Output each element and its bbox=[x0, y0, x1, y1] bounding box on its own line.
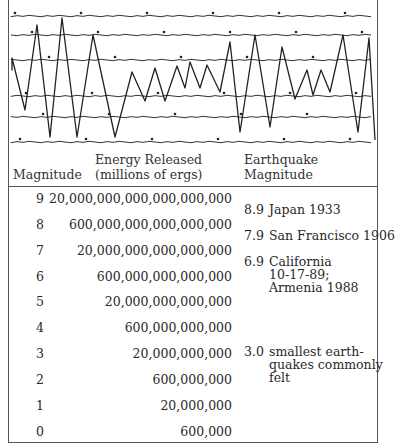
magnitude-cell: 2 bbox=[9, 372, 71, 387]
energy-cell: 600,000,000,000 bbox=[125, 320, 232, 335]
example-value: 8.9 bbox=[244, 204, 264, 216]
header-quake-line2: Magnitude bbox=[244, 168, 313, 182]
energy-cell: 20,000,000,000,000 bbox=[105, 294, 232, 309]
table-row: 0600,000 bbox=[9, 420, 377, 446]
magnitude-cell: 7 bbox=[9, 243, 71, 258]
energy-cell: 600,000,000 bbox=[152, 372, 232, 387]
energy-cell: 600,000,000,000,000 bbox=[97, 269, 232, 284]
energy-cell: 20,000,000,000,000,000 bbox=[77, 243, 232, 258]
energy-cell: 20,000,000,000 bbox=[133, 346, 232, 361]
example-value: 7.9 bbox=[244, 230, 264, 242]
example-label: San Francisco 1906 bbox=[269, 230, 395, 242]
magnitude-cell: 5 bbox=[9, 294, 71, 309]
example-value: 6.9 bbox=[244, 256, 264, 268]
example-value: 3.0 bbox=[244, 346, 264, 358]
energy-cell: 20,000,000 bbox=[160, 398, 232, 413]
example-label: Japan 1933 bbox=[269, 204, 341, 216]
header-energy-line1: Energy Released bbox=[95, 153, 202, 167]
magnitude-cell: 0 bbox=[9, 424, 71, 439]
magnitude-cell: 4 bbox=[9, 320, 71, 335]
magnitude-cell: 1 bbox=[9, 398, 71, 413]
example-label: felt bbox=[269, 372, 290, 384]
example-label: Armenia 1988 bbox=[269, 282, 359, 294]
magnitude-cell: 8 bbox=[9, 217, 71, 232]
header-magnitude: Magnitude bbox=[13, 168, 82, 182]
energy-cell: 20,000,000,000,000,000,000 bbox=[49, 191, 232, 206]
seismograph-trace bbox=[9, 0, 377, 150]
header-quake-line1: Earthquake bbox=[244, 153, 318, 167]
energy-cell: 600,000 bbox=[180, 424, 232, 439]
energy-cell: 600,000,000,000,000,000 bbox=[69, 217, 232, 232]
header-energy-line2: (millions of ergs) bbox=[95, 168, 202, 182]
magnitude-cell: 6 bbox=[9, 269, 71, 284]
table-row: 4600,000,000,000 bbox=[9, 316, 377, 342]
magnitude-cell: 3 bbox=[9, 346, 71, 361]
table-row: 120,000,000 bbox=[9, 394, 377, 420]
